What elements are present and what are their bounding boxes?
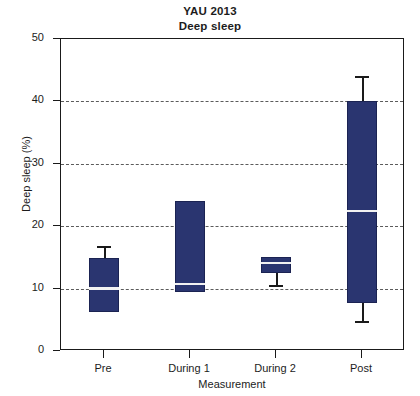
x-axis-tick (189, 350, 190, 358)
chart-figure: YAU 2013 Deep sleep Deep sleep (%) Measu… (0, 0, 420, 396)
y-axis-tick (53, 100, 60, 101)
x-axis-tick (361, 350, 362, 358)
median-line (347, 210, 377, 212)
y-axis-tick (53, 38, 60, 39)
y-axis-tick (53, 350, 60, 351)
x-axis-tick-label: During 1 (144, 362, 234, 374)
chart-title-block: YAU 2013 Deep sleep (0, 4, 420, 34)
upper-whisker-cap (355, 76, 369, 78)
x-axis-title: Measurement (60, 378, 404, 390)
y-axis-title: Deep sleep (%) (20, 114, 32, 234)
plot-area (60, 38, 404, 350)
chart-title: YAU 2013 (0, 4, 420, 19)
x-axis-tick (275, 350, 276, 358)
box-rect (89, 258, 119, 312)
lower-whisker-cap (269, 285, 283, 287)
median-line (261, 262, 291, 264)
box-rect (347, 101, 377, 303)
lower-whisker-stem (362, 303, 364, 321)
y-axis-tick-label: 10 (8, 282, 44, 293)
lower-whisker-cap (355, 321, 369, 323)
x-axis-tick-label: Post (316, 362, 406, 374)
y-axis-tick-label: 50 (8, 32, 44, 43)
lower-whisker-stem (276, 273, 278, 285)
x-axis-tick (103, 350, 104, 358)
box-rect (175, 201, 205, 291)
y-axis-tick (53, 225, 60, 226)
box-rect (261, 257, 291, 273)
upper-whisker-stem (362, 76, 364, 101)
y-axis-tick-label: 20 (8, 219, 44, 230)
chart-subtitle: Deep sleep (0, 19, 420, 34)
y-axis-tick (53, 288, 60, 289)
median-line (89, 287, 119, 289)
y-axis-tick-label: 40 (8, 94, 44, 105)
median-line (175, 283, 205, 285)
y-axis-tick (53, 163, 60, 164)
y-axis-tick-label: 30 (8, 157, 44, 168)
x-axis-tick-label: Pre (58, 362, 148, 374)
x-axis-tick-label: During 2 (230, 362, 320, 374)
y-axis-tick-label: 0 (8, 344, 44, 355)
upper-whisker-cap (97, 246, 111, 248)
